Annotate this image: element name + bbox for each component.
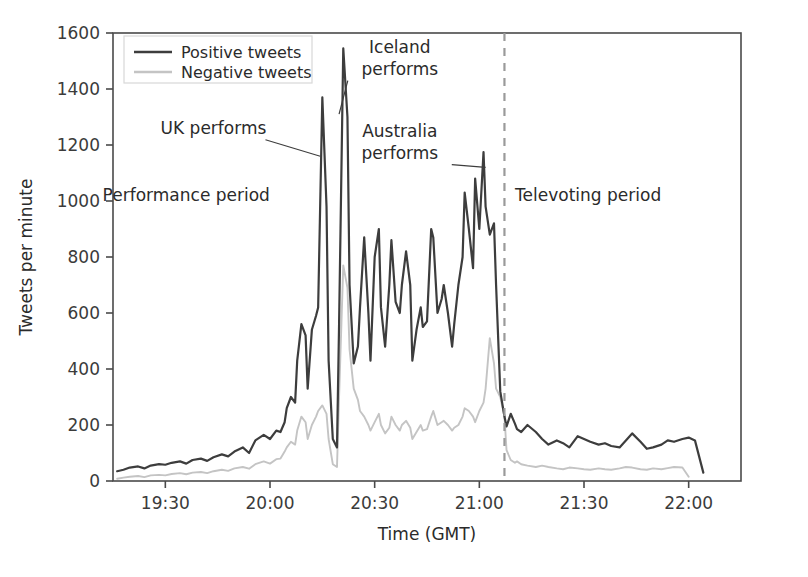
annotation-line: Performance period	[103, 185, 270, 205]
x-axis-title: Time (GMT)	[377, 524, 477, 544]
x-tick-label-22-00: 22:00	[664, 493, 713, 513]
annotation-performance-period: Performance period	[103, 185, 270, 205]
legend-label-negative-tweets: Negative tweets	[181, 63, 312, 82]
chart-figure: 02004006008001000120014001600 19:3020:00…	[0, 0, 808, 577]
chart-legend[interactable]: Positive tweets Negative tweets	[124, 36, 312, 83]
figure-background	[0, 0, 808, 577]
y-tick-label-400: 400	[68, 359, 100, 379]
x-tick-label-21-30: 21:30	[560, 493, 609, 513]
y-tick-label-200: 200	[68, 415, 100, 435]
annotation-televoting-period: Televoting period	[514, 185, 661, 205]
y-tick-label-1600: 1600	[57, 23, 100, 43]
x-tick-label-20-30: 20:30	[350, 493, 399, 513]
annotation-line: Australia	[362, 121, 437, 141]
y-axis-title: Tweets per minute	[16, 179, 36, 337]
y-tick-label-600: 600	[68, 303, 100, 323]
y-tick-label-1200: 1200	[57, 135, 100, 155]
annotation-line: Iceland	[369, 37, 431, 57]
annotation-line: performs	[361, 59, 438, 79]
annotation-uk: UK performs	[161, 118, 267, 138]
y-tick-label-0: 0	[89, 471, 100, 491]
annotation-line: performs	[361, 143, 438, 163]
x-tick-label-19-30: 19:30	[141, 493, 190, 513]
tweets-per-minute-line-chart: 02004006008001000120014001600 19:3020:00…	[0, 0, 808, 577]
x-tick-label-21-00: 21:00	[455, 493, 504, 513]
annotation-line: UK performs	[161, 118, 267, 138]
y-tick-label-1400: 1400	[57, 79, 100, 99]
y-tick-label-800: 800	[68, 247, 100, 267]
y-tick-label-1000: 1000	[57, 191, 100, 211]
legend-label-positive-tweets: Positive tweets	[181, 43, 301, 62]
x-tick-label-20-00: 20:00	[246, 493, 295, 513]
annotation-line: Televoting period	[514, 185, 661, 205]
